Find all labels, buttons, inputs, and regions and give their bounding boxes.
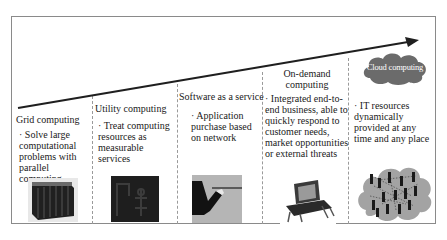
stage-description: · Treat computing resources as measurabl… <box>95 120 177 164</box>
stage-title: Grid computing <box>16 114 94 125</box>
stage-utility-computing: Utility computing · Treat computing reso… <box>95 103 177 164</box>
stage-description: · Integrated end-to-end business, able t… <box>264 93 350 159</box>
stage-title: Software as a service <box>178 91 264 102</box>
stage-software-as-a-service: Software as a service · Application purc… <box>178 91 264 143</box>
supercomputer-racks-image <box>28 178 78 222</box>
stage-description: · IT resources dynamically provided at a… <box>351 100 431 144</box>
stage-title: On-demand computing <box>264 68 350 90</box>
utility-meter-image <box>111 176 159 222</box>
laptop-image <box>280 178 336 224</box>
serving-hand-tray-image <box>192 175 242 223</box>
stage-description: · Application purchase based on network <box>178 110 264 143</box>
cloud-label: Cloud computing <box>362 52 428 84</box>
cloud-network-image <box>356 162 436 224</box>
stage-title: Utility computing <box>95 103 177 114</box>
stage-on-demand-computing: On-demand computing · Integrated end-to-… <box>264 68 350 159</box>
stage-title: Cloud computing <box>362 62 428 72</box>
stage-grid-computing: Grid computing · Solve large computation… <box>16 114 94 184</box>
stage-description: · Solve large computational problems wit… <box>16 129 94 184</box>
stage-cloud-computing: · IT resources dynamically provided at a… <box>351 96 431 144</box>
